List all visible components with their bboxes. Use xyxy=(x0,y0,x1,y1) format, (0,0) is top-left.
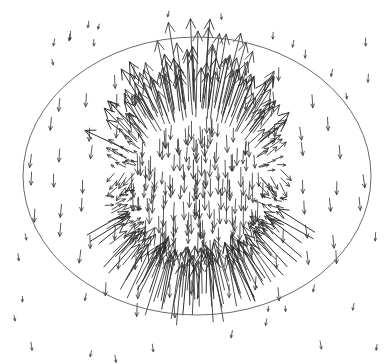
figure-root xyxy=(0,0,391,364)
vector-field-plot xyxy=(0,0,391,364)
